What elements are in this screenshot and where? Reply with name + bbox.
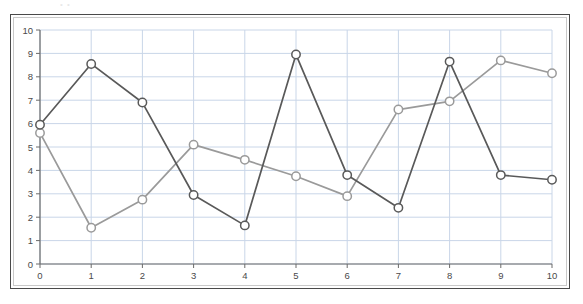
x-tick-label: 0: [37, 270, 42, 281]
y-tick-label: 1: [28, 235, 33, 246]
data-point: [548, 69, 556, 77]
data-point: [138, 195, 146, 203]
data-point: [394, 204, 402, 212]
x-tick-label: 4: [242, 270, 247, 281]
data-point: [241, 156, 249, 164]
x-tick-label: 7: [396, 270, 401, 281]
y-tick-label: 9: [28, 48, 33, 59]
y-tick-label: 8: [28, 71, 33, 82]
y-tick-label: 6: [28, 118, 33, 129]
chart-canvas: 012345678910 012345678910: [11, 15, 571, 290]
data-point: [497, 56, 505, 64]
tick-marks: [36, 30, 552, 268]
data-point: [548, 176, 556, 184]
data-point: [343, 192, 351, 200]
x-tick-label: 1: [89, 270, 94, 281]
data-point: [189, 191, 197, 199]
data-point: [36, 129, 44, 137]
gridlines: [40, 30, 552, 264]
y-tick-label: 0: [28, 259, 33, 270]
scan-artifact-text: • •: [60, 0, 260, 8]
x-tick-label: 10: [547, 270, 558, 281]
data-point: [87, 60, 95, 68]
chart-frame: 012345678910 012345678910: [10, 14, 570, 289]
y-tick-label: 7: [28, 95, 33, 106]
data-point: [292, 172, 300, 180]
x-tick-label: 8: [447, 270, 452, 281]
y-tick-label: 2: [28, 212, 33, 223]
data-point: [87, 224, 95, 232]
x-tick-label: 9: [498, 270, 503, 281]
data-point: [445, 57, 453, 65]
data-point: [189, 140, 197, 148]
data-point: [36, 121, 44, 129]
data-point: [292, 50, 300, 58]
x-tick-label: 3: [191, 270, 196, 281]
data-point: [394, 105, 402, 113]
data-point: [241, 221, 249, 229]
data-point: [445, 97, 453, 105]
data-point: [343, 171, 351, 179]
data-point: [138, 98, 146, 106]
data-point: [497, 171, 505, 179]
x-tick-label: 5: [293, 270, 298, 281]
y-tick-label: 3: [28, 188, 33, 199]
y-tick-label: 10: [22, 25, 33, 36]
y-axis-labels: 012345678910: [22, 25, 33, 270]
x-tick-label: 2: [140, 270, 145, 281]
x-tick-label: 6: [345, 270, 350, 281]
x-axis-labels: 012345678910: [37, 270, 557, 281]
y-tick-label: 5: [28, 142, 33, 153]
line-chart: 012345678910 012345678910: [11, 15, 571, 290]
y-tick-label: 4: [28, 165, 33, 176]
